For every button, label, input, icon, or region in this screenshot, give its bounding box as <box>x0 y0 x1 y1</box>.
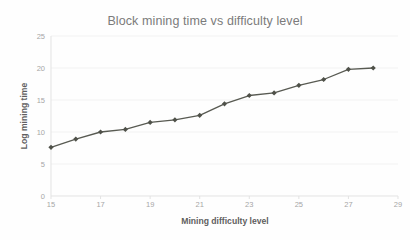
x-tick-label: 21 <box>196 200 204 209</box>
chart-plot-area: 0510152025 1517192123252729 Mining diffi… <box>0 0 410 240</box>
data-point-marker <box>197 113 202 118</box>
y-tick-label: 15 <box>37 96 45 105</box>
x-tick-label: 23 <box>245 200 253 209</box>
data-point-marker <box>222 101 227 106</box>
x-tick-label: 27 <box>344 200 352 209</box>
data-point-marker <box>73 136 78 141</box>
data-point-marker <box>371 65 376 70</box>
chart-container: Block mining time vs difficulty level 05… <box>0 0 410 240</box>
data-point-marker <box>148 120 153 125</box>
y-tick-labels-group: 0510152025 <box>37 32 45 201</box>
gridlines-group <box>51 36 398 164</box>
data-point-marker <box>48 145 53 150</box>
y-tick-label: 25 <box>37 32 45 41</box>
y-tick-label: 5 <box>41 160 45 169</box>
data-point-marker <box>247 93 252 98</box>
x-tick-label: 17 <box>96 200 104 209</box>
x-tick-label: 25 <box>295 200 303 209</box>
y-axis-title: Log mining time <box>19 83 29 150</box>
x-tick-labels-group: 1517192123252729 <box>47 196 402 209</box>
data-point-marker <box>321 77 326 82</box>
x-tick-label: 19 <box>146 200 154 209</box>
x-axis-title: Mining difficulty level <box>181 216 268 226</box>
data-point-marker <box>271 90 276 95</box>
data-point-marker <box>346 67 351 72</box>
data-point-marker <box>98 129 103 134</box>
x-tick-label: 29 <box>394 200 402 209</box>
data-point-marker <box>123 127 128 132</box>
x-tick-label: 15 <box>47 200 55 209</box>
y-tick-label: 10 <box>37 128 45 137</box>
axis-lines-group <box>51 36 398 196</box>
data-point-marker <box>296 83 301 88</box>
y-tick-label: 20 <box>37 64 45 73</box>
data-series-group <box>48 65 375 150</box>
data-point-marker <box>172 117 177 122</box>
y-tick-label: 0 <box>41 192 45 201</box>
